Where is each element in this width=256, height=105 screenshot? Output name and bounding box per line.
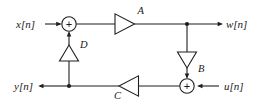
- signal-label-x: x[n]: [15, 18, 35, 30]
- signal-label-y: y[n]: [13, 80, 33, 92]
- signal-flow-diagram: + A D B: [0, 0, 256, 105]
- bottom-adder-plus-sign: +: [184, 80, 190, 92]
- gain-b-triangle: [178, 52, 197, 68]
- gain-d-label: D: [79, 39, 88, 50]
- gain-b-label: B: [198, 63, 205, 74]
- arrowhead-x-into-adder: [56, 22, 61, 27]
- arrowhead-d-into-adder: [67, 31, 72, 36]
- signal-flow-svg: + A D B: [0, 0, 256, 105]
- signal-label-u: u[n]: [224, 80, 244, 92]
- gain-a-triangle: [115, 14, 135, 34]
- arrowhead-y-output: [38, 84, 43, 89]
- arrowhead-b-into-adder: [185, 74, 190, 79]
- gain-c-triangle: [119, 76, 139, 96]
- gain-a-label: A: [137, 5, 145, 16]
- arrowhead-u-into-adder: [197, 84, 202, 89]
- gain-d-triangle: [60, 45, 79, 61]
- gain-c-label: C: [114, 90, 122, 101]
- signal-label-w: w[n]: [226, 18, 247, 30]
- arrowhead-w-output: [218, 22, 223, 27]
- top-adder-plus-sign: +: [66, 18, 72, 30]
